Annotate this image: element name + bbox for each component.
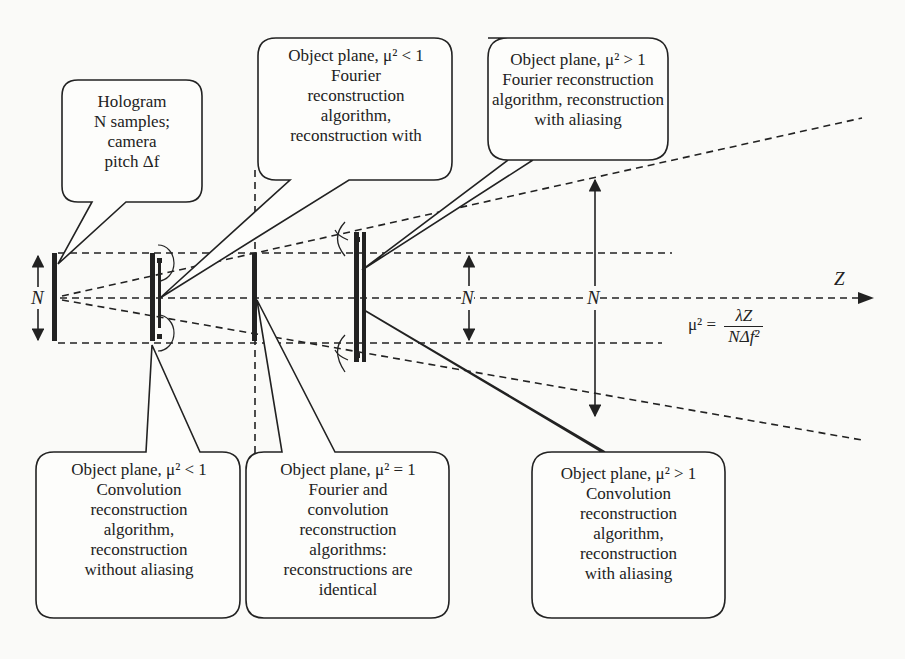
formula-fraction: λZ NΔf² [724,306,763,347]
formula-denominator: NΔf² [724,327,763,347]
outer-n-label: N [587,287,600,309]
callout-bottom-eq1: Object plane, μ² = 1 Fourier and convolu… [247,460,449,600]
inner-n-label: N [461,287,474,309]
formula-numerator: λZ [724,306,763,327]
hologram-plate [52,253,57,341]
object-plane-gt1 [335,222,366,372]
callout-hologram: Hologram N samples; camera pitch Δf [64,92,200,172]
hologram-reconstruction-diagram: Hologram N samples; camera pitch Δf Obje… [0,0,905,659]
callout-bottom-conv-lt1: Object plane, μ² < 1 Convolution reconst… [38,460,240,580]
callout-bottom-conv-gt1: Object plane, μ² > 1 Convolution reconst… [532,464,725,584]
z-axis-label: Z [834,268,845,290]
formula-lhs: μ² = [688,315,716,334]
callout-top-fourier-lt1: Object plane, μ² < 1 Fourier reconstruct… [260,46,452,146]
mu-squared-formula: μ² = λZ NΔf² [688,306,763,347]
z-axis-arrowhead [858,292,874,304]
object-plane-eq1 [252,253,257,341]
callout-top-fourier-gt1: Object plane, μ² > 1 Fourier reconstruct… [490,50,666,130]
left-n-label: N [31,287,44,309]
